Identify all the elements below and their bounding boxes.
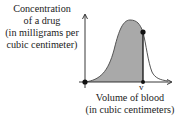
x-axis-label: Volume of blood (in cubic centimeters) [80,92,180,116]
x-axis-label-line: Volume of blood [80,92,180,104]
curve-point-at-v [140,29,145,34]
origin-point [82,79,87,84]
x-axis-label-line: (in cubic centimeters) [80,104,180,116]
v-tick-label: v [139,82,144,92]
